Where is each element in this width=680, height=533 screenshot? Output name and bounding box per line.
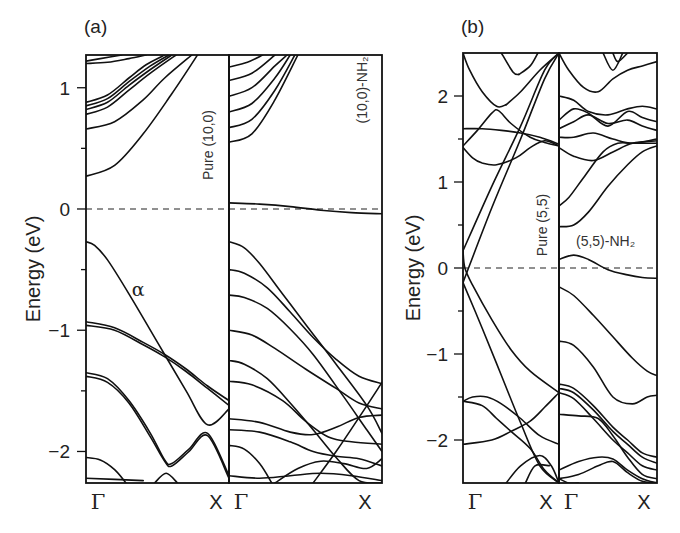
subplot-annotation: Pure (10,0) <box>200 110 216 180</box>
subplot-10-0-nh2: Γ(10,0)-NH₂ <box>229 55 382 514</box>
band-curve <box>229 55 287 96</box>
panel-label: (a) <box>84 16 107 37</box>
panel-1: (b)Energy (eV)210−1−2ΓXPure (5,5)ΓX(5,5)… <box>402 16 657 514</box>
k-label-gamma: Γ <box>468 490 483 514</box>
subplot-annotation: (10,0)-NH₂ <box>354 57 370 124</box>
k-label-x: X <box>358 491 371 513</box>
band-curve <box>86 325 229 405</box>
subplot-annotation: (5,5)-NH₂ <box>576 233 635 249</box>
band-curve <box>86 55 198 176</box>
y-tick-label: 1 <box>437 172 448 193</box>
band-curve <box>229 55 290 112</box>
y-tick-label: 0 <box>437 258 448 279</box>
y-axis-label: Energy (eV) <box>402 215 424 322</box>
panel-0: (a)Energy (eV)10−1−2ΓXPure (10,0)αΓ(10,0… <box>22 16 382 514</box>
band-curve <box>559 287 657 376</box>
y-tick-label: −2 <box>426 430 448 451</box>
band-curve <box>559 96 657 115</box>
band-curve <box>229 203 382 214</box>
band-curve <box>86 478 143 480</box>
k-label-gamma: Γ <box>234 490 249 514</box>
y-tick-label: −1 <box>48 320 70 341</box>
band-curve <box>559 384 657 457</box>
y-tick-label: −2 <box>48 441 70 462</box>
band-curve <box>501 53 518 75</box>
band-curve <box>229 473 382 480</box>
band-curve <box>86 242 229 425</box>
band-label-alpha: α <box>132 278 145 300</box>
band-curve <box>559 414 657 479</box>
band-curve <box>229 55 275 81</box>
band-curve <box>519 53 538 75</box>
band-curve <box>559 255 657 278</box>
band-curve <box>155 473 178 483</box>
band-curve <box>559 461 657 483</box>
k-label-x: X <box>539 491 552 513</box>
band-curve <box>559 393 657 470</box>
y-tick-label: 0 <box>59 199 70 220</box>
k-label-gamma: Γ <box>91 490 106 514</box>
y-axis-label: Energy (eV) <box>22 216 44 323</box>
band-curve <box>559 457 657 483</box>
band-curve <box>229 330 382 409</box>
band-curve <box>86 55 192 129</box>
band-curve <box>559 341 657 404</box>
k-label-gamma: Γ <box>564 490 579 514</box>
subplot-pure-5-5: ΓXPure (5,5) <box>463 53 559 514</box>
y-tick-label: 1 <box>59 78 70 99</box>
band-curve <box>229 295 382 451</box>
band-curve <box>86 55 165 102</box>
band-curve <box>86 376 229 478</box>
band-curve <box>559 133 657 143</box>
k-label-x: X <box>209 491 222 513</box>
subplot-pure-10-0: ΓXPure (10,0)α <box>86 55 229 514</box>
band-structure-figure: (a)Energy (eV)10−1−2ΓXPure (10,0)αΓ(10,0… <box>0 0 680 533</box>
subplot-5-5-nh2: ΓX(5,5)-NH₂ <box>559 53 657 514</box>
band-curve <box>463 251 559 393</box>
band-curve <box>229 55 263 67</box>
y-tick-label: 2 <box>437 86 448 107</box>
panel-label: (b) <box>461 16 484 37</box>
k-label-x: X <box>637 491 650 513</box>
band-curve <box>229 270 382 384</box>
band-curve <box>229 242 382 434</box>
band-curve <box>559 53 657 92</box>
band-curve <box>559 146 657 227</box>
subplot-annotation: Pure (5,5) <box>534 194 550 256</box>
band-curve <box>463 53 506 107</box>
y-tick-label: −1 <box>426 344 448 365</box>
